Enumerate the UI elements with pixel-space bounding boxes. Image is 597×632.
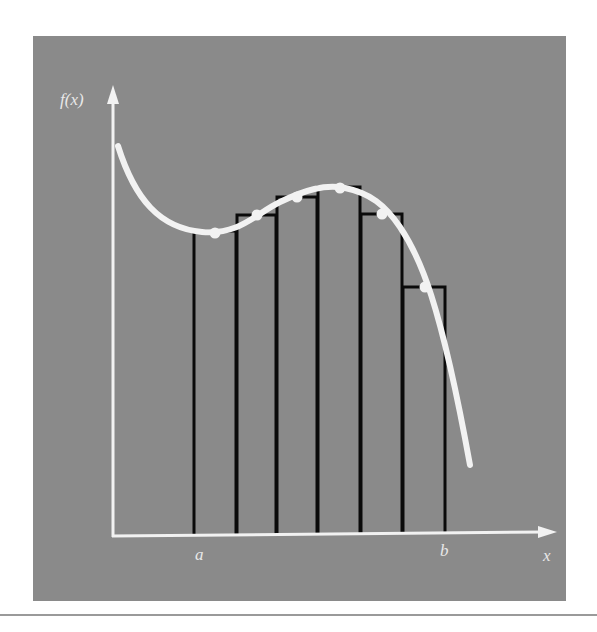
- y-axis-label: f(x): [60, 90, 84, 109]
- y-axis-arrow-icon: [107, 85, 119, 104]
- x-axis: [112, 532, 545, 536]
- upper-limit-label: b: [440, 541, 449, 560]
- midpoint-markers: [210, 183, 431, 293]
- x-axis-arrow-icon: [538, 526, 557, 538]
- rectangle-1: [194, 231, 236, 534]
- caption-divider: [0, 614, 597, 616]
- midpoint-marker: [377, 209, 388, 220]
- riemann-sum-diagram: f(x) x a b: [0, 0, 597, 632]
- midpoint-marker: [292, 192, 303, 203]
- rectangle-2: [237, 215, 276, 534]
- midpoint-marker: [252, 210, 263, 221]
- midpoint-marker: [420, 282, 431, 293]
- midpoint-marker: [210, 228, 221, 239]
- rectangle-3: [277, 197, 317, 534]
- lower-limit-label: a: [195, 545, 204, 564]
- axes: [112, 96, 545, 537]
- rectangle-4: [318, 187, 360, 534]
- midpoint-marker: [335, 183, 346, 194]
- x-axis-label: x: [542, 546, 551, 565]
- rectangle-5: [361, 214, 402, 534]
